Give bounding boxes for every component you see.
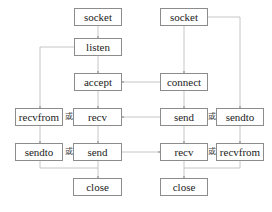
- server-socket-label: socket: [84, 11, 112, 23]
- client-send-box: send: [160, 108, 208, 126]
- server-accept-label: accept: [84, 76, 112, 88]
- client-sendto-label: sendto: [226, 111, 255, 123]
- server-send-box: send: [73, 143, 122, 161]
- client-connect-box: connect: [160, 73, 208, 91]
- or-label-server-recv: 或: [65, 112, 73, 122]
- client-recv-box: recv: [160, 143, 208, 161]
- server-recv-label: recv: [88, 111, 107, 123]
- client-connect-label: connect: [167, 76, 201, 88]
- server-close-label: close: [86, 181, 109, 193]
- or-label-client-recv: 或: [208, 147, 216, 157]
- client-socket-label: socket: [170, 11, 198, 23]
- connector-lines: [0, 0, 272, 212]
- server-recv-box: recv: [73, 108, 122, 126]
- socket-flow-diagram: socket listen accept recv send close rec…: [0, 0, 272, 212]
- client-send-label: send: [174, 111, 194, 123]
- client-sendto-box: sendto: [216, 108, 264, 126]
- server-socket-box: socket: [74, 8, 122, 26]
- server-listen-label: listen: [86, 41, 110, 53]
- server-accept-box: accept: [74, 73, 122, 91]
- client-recvfrom-label: recvfrom: [220, 146, 260, 158]
- client-recvfrom-box: recvfrom: [216, 143, 264, 161]
- server-recvfrom-box: recvfrom: [15, 108, 63, 126]
- server-sendto-box: sendto: [15, 143, 63, 161]
- server-close-box: close: [73, 178, 122, 196]
- server-recvfrom-label: recvfrom: [19, 111, 59, 123]
- or-label-client-send: 或: [208, 112, 216, 122]
- server-listen-box: listen: [74, 38, 122, 56]
- client-close-box: close: [160, 178, 208, 196]
- client-socket-box: socket: [160, 8, 208, 26]
- server-sendto-label: sendto: [25, 146, 54, 158]
- client-recv-label: recv: [175, 146, 194, 158]
- server-send-label: send: [87, 146, 107, 158]
- or-label-server-send: 或: [65, 147, 73, 157]
- client-close-label: close: [173, 181, 196, 193]
